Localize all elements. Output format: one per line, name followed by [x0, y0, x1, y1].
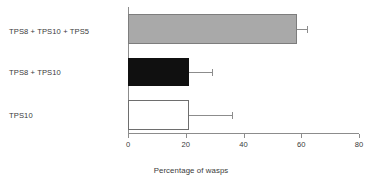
error-bar-line-tps8-tps10: [189, 72, 212, 73]
error-bar-cap-tps8-tps10-tps5: [307, 26, 308, 33]
error-bar-line-tps8-tps10-tps5: [297, 29, 307, 30]
x-tick-label-20: 20: [182, 140, 190, 149]
bar-tps8-tps10-tps5: [128, 14, 297, 44]
error-bar-cap-tps10: [232, 112, 233, 119]
bar-chart: TPS8 + TPS10 + TPS5 TPS8 + TPS10 TPS10 0…: [0, 0, 382, 188]
x-tick-label-0: 0: [126, 140, 130, 149]
x-tick-label-60: 60: [297, 140, 305, 149]
plot-area: 0 20 40 60 80: [128, 7, 359, 133]
x-tick-80: [359, 134, 360, 138]
x-tick-40: [244, 134, 245, 138]
x-tick-label-80: 80: [355, 140, 363, 149]
bar-tps10: [128, 100, 189, 130]
error-bar-line-tps10: [189, 115, 232, 116]
x-tick-60: [301, 134, 302, 138]
x-tick-0: [128, 134, 129, 138]
category-label-tps8-tps10-tps5: TPS8 + TPS10 + TPS5: [9, 27, 121, 36]
x-tick-20: [186, 134, 187, 138]
category-label-tps10: TPS10: [9, 111, 121, 120]
category-label-tps8-tps10: TPS8 + TPS10: [9, 68, 121, 77]
error-bar-cap-tps8-tps10: [212, 69, 213, 76]
x-tick-label-40: 40: [239, 140, 247, 149]
x-axis-title: Percentage of wasps: [0, 166, 382, 176]
bar-tps8-tps10: [128, 58, 189, 86]
